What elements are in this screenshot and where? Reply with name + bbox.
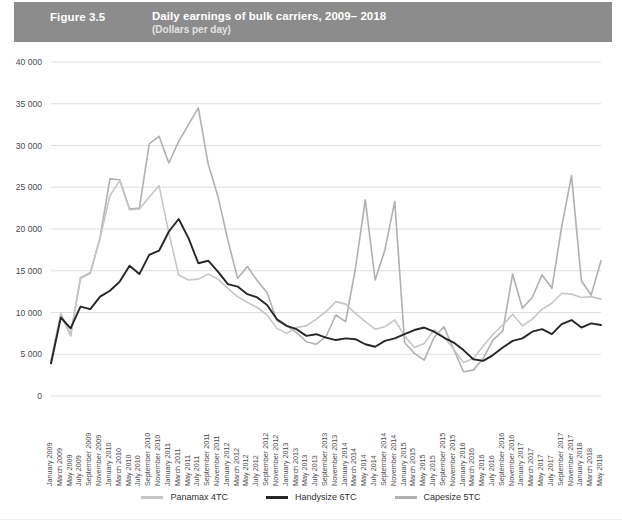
legend-item[interactable]: Panamax 4TC <box>141 492 228 502</box>
series-line-capesize-5tc <box>51 108 601 372</box>
x-axis-tick-label: March 2017 <box>526 448 535 486</box>
figure-container: Figure 3.5 Daily earnings of bulk carrie… <box>0 0 622 523</box>
y-axis-tick-label: 10 000 <box>16 308 43 318</box>
x-axis-tick-label: March 2018 <box>585 448 594 486</box>
x-axis-tick-label: March 2011 <box>173 449 182 486</box>
x-axis-tick-label: September 2013 <box>320 433 329 486</box>
x-axis-tick-label: November 2012 <box>271 435 280 486</box>
x-axis-tick-label: March 2013 <box>291 448 300 486</box>
x-axis-tick-label: May 2014 <box>359 454 368 486</box>
x-axis-tick-label: November 2015 <box>448 435 457 486</box>
x-axis-tick-label: May 2017 <box>536 454 545 486</box>
x-axis-tick-label: September 2017 <box>556 433 565 486</box>
legend-color-swatch <box>395 496 417 499</box>
x-axis-tick-label: July 2010 <box>133 455 142 486</box>
x-axis-tick-label: September 2014 <box>379 433 388 486</box>
x-axis-tick-label: May 2011 <box>183 455 192 486</box>
x-axis-tick-label: May 2015 <box>418 454 427 486</box>
x-axis-tick-label: January 2011 <box>163 443 172 486</box>
chart-series-lines <box>51 108 601 372</box>
y-axis-tick-label: 30 000 <box>16 141 43 151</box>
figure-number: Figure 3.5 <box>50 11 105 23</box>
x-axis-tick-label: September 2010 <box>143 433 152 486</box>
x-axis-tick-label: May 2009 <box>65 454 74 486</box>
legend-label: Panamax 4TC <box>170 492 228 502</box>
x-axis-tick-label: January 2016 <box>458 442 467 486</box>
x-axis-tick-label: January 2010 <box>104 442 113 486</box>
x-axis-tick-label: January 2009 <box>45 442 54 486</box>
x-axis-tick-label: July 2013 <box>310 455 319 486</box>
x-axis-tick-label: July 2011 <box>192 456 201 486</box>
y-axis-tick-label: 25 000 <box>16 182 43 192</box>
x-axis-tick-label: January 2015 <box>399 442 408 486</box>
y-axis-tick-label: 20 000 <box>16 224 43 234</box>
x-axis-tick-label: November 2010 <box>153 435 162 486</box>
y-axis-tick-label: 35 000 <box>16 99 43 109</box>
x-axis-tick-label: September 2011 <box>202 433 211 486</box>
legend-item[interactable]: Handysize 6TC <box>266 492 357 502</box>
legend-label: Handysize 6TC <box>295 492 357 502</box>
x-axis-tick-label: January 2012 <box>222 442 231 486</box>
x-axis-tick-label: March 2016 <box>467 448 476 486</box>
x-axis-tick-label: July 2016 <box>487 455 496 486</box>
chart-legend: Panamax 4TCHandysize 6TCCapesize 5TC <box>0 487 622 507</box>
line-chart: 05 00010 00015 00020 00025 00030 00035 0… <box>0 44 622 404</box>
x-axis-tick-label: September 2016 <box>497 433 506 486</box>
x-axis-tick-label: January 2017 <box>516 442 525 486</box>
x-axis-tick-label: July 2009 <box>74 455 83 486</box>
x-axis-tick-label: November 2009 <box>94 435 103 486</box>
x-axis-tick-label: November 2017 <box>566 435 575 486</box>
legend-label: Capesize 5TC <box>424 492 481 502</box>
figure-title: Daily earnings of bulk carriers, 2009– 2… <box>152 10 386 22</box>
series-line-handysize-6tc <box>51 219 601 363</box>
x-axis-tick-label: March 2012 <box>232 448 241 486</box>
x-axis-tick-label: March 2010 <box>114 448 123 486</box>
y-axis-tick-label: 40 000 <box>16 57 43 67</box>
y-axis-tick-label: 5 000 <box>20 349 42 359</box>
x-axis-tick-label: November 2016 <box>507 435 516 486</box>
x-axis-tick-label: May 2018 <box>595 454 604 486</box>
x-axis-tick-label: May 2013 <box>300 454 309 486</box>
x-axis-tick-label: January 2013 <box>281 442 290 486</box>
chart-y-axis-labels: 05 00010 00015 00020 00025 00030 00035 0… <box>16 57 43 401</box>
x-axis-tick-label: November 2014 <box>389 435 398 486</box>
x-axis-tick-label: January 2014 <box>340 442 349 486</box>
chart-gridlines <box>51 62 601 396</box>
x-axis-tick-label: March 2014 <box>349 448 358 486</box>
legend-item[interactable]: Capesize 5TC <box>395 492 481 502</box>
x-axis-tick-label: July 2012 <box>251 455 260 486</box>
x-axis-tick-label: March 2009 <box>55 448 64 486</box>
figure-subtitle: (Dollars per day) <box>152 24 231 35</box>
x-axis-tick-label: January 2018 <box>575 442 584 486</box>
x-axis-tick-label: July 2017 <box>546 455 555 486</box>
x-axis-tick-label: May 2012 <box>241 454 250 486</box>
x-axis-tick-label: July 2015 <box>428 455 437 486</box>
legend-color-swatch <box>141 496 163 499</box>
footer-divider <box>0 519 622 520</box>
chart-plot-area: 05 00010 00015 00020 00025 00030 00035 0… <box>0 44 622 404</box>
x-axis-tick-label: November 2013 <box>330 435 339 486</box>
y-axis-tick-label: 15 000 <box>16 266 43 276</box>
chart-x-axis-labels: January 2009March 2009May 2009July 2009S… <box>0 400 622 486</box>
x-axis-tick-label: May 2016 <box>477 454 486 486</box>
x-axis-tick-label: November 2011 <box>212 435 221 486</box>
x-axis-tick-label: July 2014 <box>369 455 378 486</box>
x-axis-tick-label: September 2009 <box>84 433 93 486</box>
x-axis-tick-label: May 2010 <box>124 454 133 486</box>
legend-color-swatch <box>266 496 288 499</box>
x-axis-tick-label: March 2015 <box>408 448 417 486</box>
figure-header-band: Figure 3.5 Daily earnings of bulk carrie… <box>14 2 612 42</box>
x-axis-tick-label: September 2015 <box>438 433 447 486</box>
x-axis-tick-label: September 2012 <box>261 433 270 486</box>
